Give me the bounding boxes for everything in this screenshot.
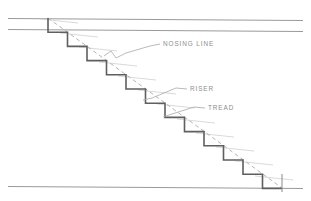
ground-floor-line	[8, 187, 303, 189]
label-nosing-line: NOSING LINE	[163, 40, 214, 47]
tick-mark	[118, 76, 156, 80]
label-tread: TREAD	[208, 104, 234, 111]
lower-floor-line	[8, 30, 303, 32]
tick-mark	[157, 104, 195, 108]
stair-section-diagram: NOSING LINE RISER TREAD	[0, 0, 311, 201]
tick-mark	[60, 33, 98, 37]
tick-mark	[216, 147, 254, 151]
tick-mark	[177, 119, 215, 123]
nosing-line-leader	[104, 44, 160, 58]
tick-mark	[255, 176, 293, 180]
stair-diagram-canvas: NOSING LINE RISER TREAD	[0, 0, 311, 201]
tick-mark	[235, 161, 273, 165]
tick-mark	[79, 47, 117, 51]
label-riser: RISER	[190, 85, 214, 92]
leader-lines-group	[104, 44, 205, 117]
tread-leader	[163, 107, 205, 117]
riser-leader	[143, 88, 187, 100]
tick-mark	[196, 133, 234, 137]
tick-mark	[99, 62, 137, 66]
tick-mark	[40, 19, 78, 23]
